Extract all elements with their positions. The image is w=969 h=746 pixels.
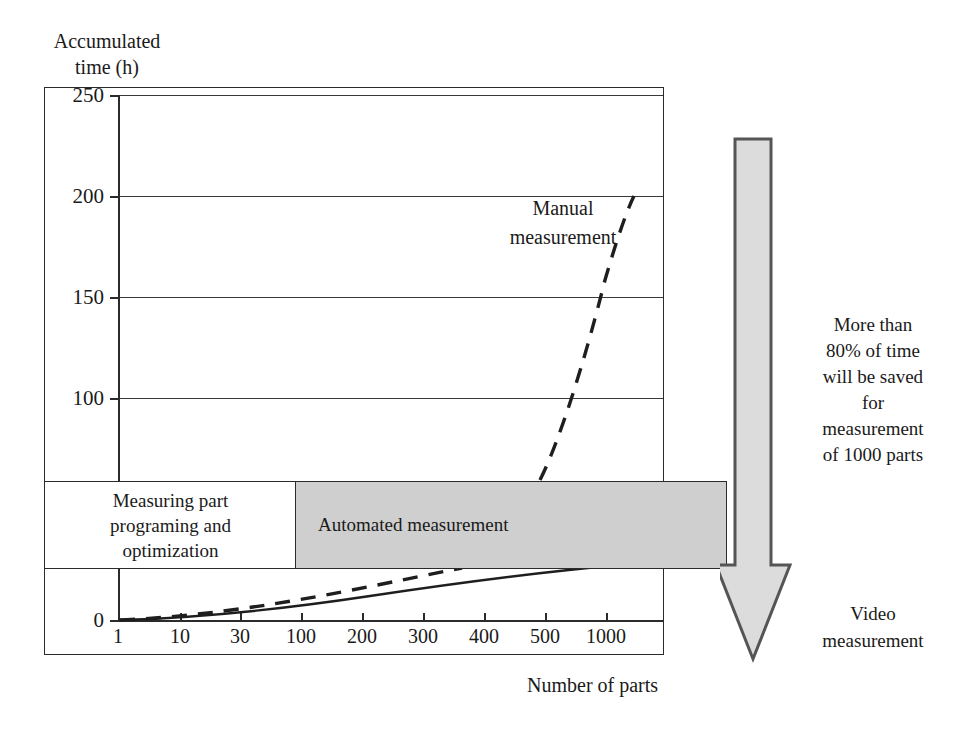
- x-tick-label-1000: 1000: [571, 624, 641, 648]
- x-tick-mark-200: [362, 613, 364, 622]
- x-tick-label-200: 200: [327, 624, 397, 648]
- y-tick-mark-150: [110, 297, 120, 299]
- series-label-video: Video measurement: [790, 600, 956, 654]
- x-tick-mark-10: [180, 613, 182, 622]
- band-automated-measurement-label: Automated measurement: [296, 513, 508, 537]
- savings-callout-text: More than 80% of time will be saved for …: [790, 312, 956, 468]
- down-arrow-icon: [720, 135, 800, 665]
- y-tick-label-250: 250: [44, 85, 104, 106]
- y-axis-title: Accumulated time (h): [32, 28, 182, 80]
- chart-figure: Accumulated time (h) 250 200 150 100 0 1…: [0, 0, 969, 746]
- x-tick-label-30: 30: [205, 624, 275, 648]
- plot-frame: [44, 87, 664, 655]
- x-tick-label-500: 500: [510, 624, 580, 648]
- gridline-100: [118, 398, 663, 399]
- x-axis-title: Number of parts: [527, 673, 658, 698]
- x-tick-mark-300: [423, 613, 425, 622]
- y-tick-label-100: 100: [44, 388, 104, 409]
- x-tick-mark-400: [484, 613, 486, 622]
- band-measuring-part-setup-label: Measuring part programing and optimizati…: [110, 488, 231, 563]
- band-automated-measurement: Automated measurement: [295, 481, 727, 569]
- x-tick-label-400: 400: [449, 624, 519, 648]
- x-tick-mark-500: [545, 613, 547, 622]
- gridline-150: [118, 297, 663, 298]
- x-tick-label-300: 300: [388, 624, 458, 648]
- y-tick-mark-250: [110, 95, 120, 97]
- x-axis-line: [118, 620, 663, 622]
- y-tick-label-150: 150: [44, 287, 104, 308]
- x-tick-label-1: 1: [83, 624, 153, 648]
- gridline-250: [118, 95, 663, 96]
- x-tick-mark-30: [240, 613, 242, 622]
- x-tick-mark-1: [118, 613, 120, 622]
- y-tick-label-200: 200: [44, 186, 104, 207]
- x-tick-label-100: 100: [266, 624, 336, 648]
- x-tick-mark-1000: [606, 613, 608, 622]
- y-tick-mark-100: [110, 398, 120, 400]
- y-tick-mark-200: [110, 196, 120, 198]
- series-label-manual: Manual measurement: [488, 194, 638, 252]
- x-tick-mark-100: [301, 613, 303, 622]
- band-measuring-part-setup: Measuring part programing and optimizati…: [44, 481, 296, 569]
